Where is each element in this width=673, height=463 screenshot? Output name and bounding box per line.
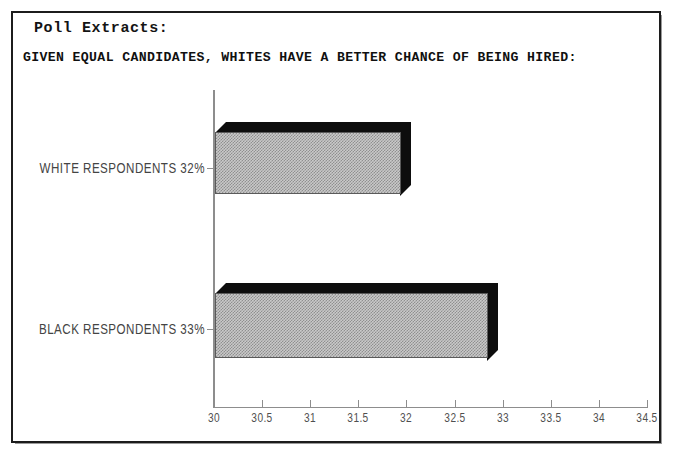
x-tick-mark-8 [599, 400, 600, 407]
x-tick-mark-1 [262, 400, 263, 407]
x-tick-mark-5 [455, 400, 456, 407]
category-label-black-respondents: BLACK RESPONDENTS 33% [0, 321, 205, 337]
bar-side-shadow-1 [487, 283, 498, 361]
x-tick-mark-9 [647, 400, 648, 407]
category-label-white-respondents: WHITE RESPONDENTS 32% [0, 160, 205, 176]
bar-face-1 [215, 293, 488, 358]
x-tick-label-1: 30.5 [251, 410, 272, 425]
x-axis-line [213, 407, 648, 408]
bar-face-0 [215, 132, 401, 194]
x-tick-label-3: 31.5 [348, 410, 369, 425]
y-tick-1 [207, 329, 214, 330]
x-tick-mark-7 [551, 400, 552, 407]
x-tick-mark-6 [503, 400, 504, 407]
bar-chart: WHITE RESPONDENTS 32% BLACK RESPONDENTS … [0, 0, 673, 463]
x-tick-label-4: 32 [400, 410, 412, 425]
x-tick-mark-2 [310, 400, 311, 407]
x-tick-label-0: 30 [208, 410, 220, 425]
x-tick-label-6: 33 [497, 410, 509, 425]
x-tick-label-5: 32.5 [444, 410, 465, 425]
x-tick-label-2: 31 [304, 410, 316, 425]
x-tick-label-7: 33.5 [540, 410, 561, 425]
bar-side-shadow-0 [400, 122, 411, 196]
x-tick-mark-0 [214, 400, 215, 407]
x-tick-label-8: 34 [593, 410, 605, 425]
y-tick-0 [207, 168, 214, 169]
x-tick-label-9: 34.5 [636, 410, 657, 425]
x-tick-mark-3 [358, 400, 359, 407]
x-tick-mark-4 [406, 400, 407, 407]
